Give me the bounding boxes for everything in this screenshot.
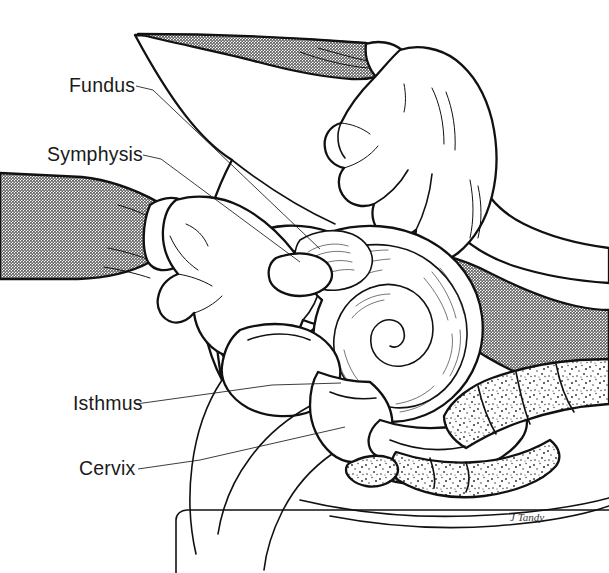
label-cervix: Cervix xyxy=(79,457,136,479)
label-fundus: Fundus xyxy=(69,74,135,96)
anatomical-diagram-canvas: Fundus Symphysis Isthmus Cervix J Tandy xyxy=(0,0,609,573)
illustration-figure: Fundus Symphysis Isthmus Cervix J Tandy xyxy=(0,0,609,573)
pubic-symphysis xyxy=(269,254,332,297)
artist-signature: J Tandy xyxy=(510,511,544,523)
label-symphysis: Symphysis xyxy=(47,143,143,165)
label-isthmus: Isthmus xyxy=(73,392,143,414)
coccyx xyxy=(346,456,398,487)
